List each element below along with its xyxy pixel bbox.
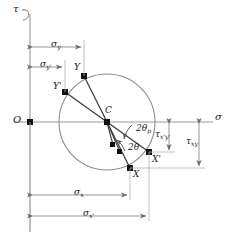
dimension-label-tau-xy-sub: xy [191,140,198,147]
sigma-axis-label: σ [215,112,222,122]
point-label-C: C [105,106,112,115]
point-label-Y-prime-mark: ' [59,81,61,91]
dimension-label-sigma-y-prime: σy' [40,60,51,70]
dimension-label-sigma-y: σy [51,40,61,50]
dimension-label-tau-xprime-yprime: τx'y' [155,130,170,140]
angle-label-two-theta: 2θ [128,143,139,152]
angle-label-two-theta-p-text: 2θ [136,123,147,133]
point-marker-P1 [110,142,115,147]
angle-label-two-theta-p: 2θp [136,124,151,134]
point-label-Y-prime: Y' [53,82,61,91]
point-label-X: X [133,170,139,179]
dimension-label-tau-xprime-yprime-sub: x'y' [160,133,170,140]
point-label-X-prime: X' [152,155,161,164]
axis-group [14,10,213,232]
point-marker-P2 [117,149,122,154]
dimension-label-sigma-x-prime: σx' [83,209,94,219]
tau-axis-label: τ [13,4,19,14]
dimension-label-sigma-x-prime-mark: ' [93,212,95,219]
point-label-Y: Y [74,63,80,72]
dimension-label-sigma-y-prime-mark: ' [50,63,52,70]
tau-curved-arrow-icon [22,10,29,20]
dimension-label-sigma-y-prime-sub: y' [46,63,51,70]
dimension-label-sigma-x-sub: x [80,191,83,198]
extension-line-group [30,40,205,232]
dimension-label-sigma-y-sub: y [57,43,60,50]
dimension-label-sigma-x-prime-sub: x' [89,212,94,219]
dimension-line-group [33,47,146,216]
dimension-label-tau-xy: τxy [186,137,198,147]
origin-label: O [13,115,21,125]
mohrs-circle-figure: τ σ O C Y Y' X X' 2θp 2θ σy σy' σx σx' τ… [0,0,229,239]
point-label-X-prime-mark: ' [158,154,160,164]
dimension-label-sigma-x: σx [74,188,84,198]
point-marker-C [104,119,110,125]
angle-label-two-theta-p-sub: p [147,127,151,134]
mohrs-circle-canvas [0,0,229,239]
